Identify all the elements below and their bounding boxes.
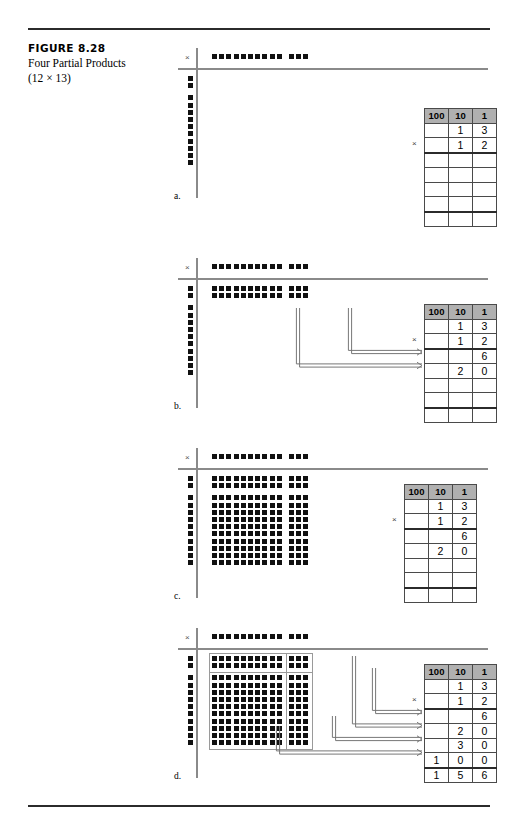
array-dot (270, 476, 275, 481)
array-dot (241, 495, 246, 500)
array-dot (277, 517, 282, 522)
factor-dot (289, 54, 294, 59)
factor-dot (234, 454, 239, 459)
table-cell (425, 123, 449, 138)
array-dot (241, 510, 246, 515)
figure-caption: FIGURE 8.28 Four Partial Products (12 × … (28, 42, 178, 86)
table-cell (473, 153, 497, 168)
array-dot (303, 503, 308, 508)
factor-dot (241, 54, 246, 59)
array-dot (234, 531, 239, 536)
horizontal-axis-line (178, 468, 488, 470)
panel-c: ×1001011312620×c. (178, 446, 508, 636)
array-dot (248, 483, 253, 488)
array-dot (219, 495, 224, 500)
factor-dot (262, 54, 267, 59)
array-dot (226, 546, 231, 551)
table-cell (425, 197, 449, 212)
table-cell: 0 (453, 544, 477, 559)
factor-dot (188, 553, 193, 558)
table-header-cell: 1 (473, 109, 497, 124)
array-dot (226, 524, 231, 529)
factor-dot (188, 110, 193, 115)
array-dot (289, 531, 294, 536)
array-dot (234, 510, 239, 515)
array-dot (270, 539, 275, 544)
array-dot (255, 510, 260, 515)
table-header-row: 100101 (405, 485, 477, 500)
table-cell: 1 (449, 123, 473, 138)
array-dot (219, 483, 224, 488)
table-header-row: 100101 (425, 109, 497, 124)
factor-dot (277, 54, 282, 59)
array-dot (241, 531, 246, 536)
array-dot (277, 531, 282, 536)
array-dot (277, 510, 282, 515)
factor-dot (188, 560, 193, 565)
array-dot (255, 476, 260, 481)
factor-dot (188, 153, 193, 158)
array-dot (277, 560, 282, 565)
array-dot (248, 560, 253, 565)
array-dot (270, 553, 275, 558)
table-row (425, 197, 497, 212)
array-dot (270, 546, 275, 551)
array-dot (303, 560, 308, 565)
array-dot (219, 517, 224, 522)
array-dot (277, 524, 282, 529)
array-dot (212, 476, 217, 481)
array-dot (219, 553, 224, 558)
array-dot (219, 503, 224, 508)
table-row: 6 (405, 529, 477, 544)
factor-dot (188, 483, 193, 488)
array-dot (262, 476, 267, 481)
table-cell (405, 544, 429, 559)
array-dot (277, 553, 282, 558)
array-dot (241, 560, 246, 565)
array-dot (248, 510, 253, 515)
array-dot (303, 546, 308, 551)
table-cell (449, 153, 473, 168)
array-dot (241, 539, 246, 544)
panel-a: ×1001011312×a. (178, 46, 508, 236)
array-dot (241, 476, 246, 481)
array-dot (289, 476, 294, 481)
factor-dot (255, 454, 260, 459)
table-cell (425, 182, 449, 197)
table-cell (405, 529, 429, 544)
array-dot (270, 495, 275, 500)
array-dot (289, 560, 294, 565)
array-dot (255, 524, 260, 529)
array-dot (255, 531, 260, 536)
panel-letter-label: b. (174, 401, 181, 411)
array-dot (219, 510, 224, 515)
figure-subtitle: (12 × 13) (28, 71, 178, 86)
array-dot (277, 546, 282, 551)
array-dot (212, 553, 217, 558)
array-dot (303, 517, 308, 522)
table-cell (473, 197, 497, 212)
array-dot (212, 524, 217, 529)
array-dot (296, 503, 301, 508)
table-header-cell: 100 (405, 485, 429, 500)
array-dot (296, 517, 301, 522)
array-dot (241, 483, 246, 488)
factor-dot (188, 503, 193, 508)
factor-dot (188, 495, 193, 500)
array-dot (226, 539, 231, 544)
array-dot (255, 503, 260, 508)
factor-dot (188, 117, 193, 122)
table-row (425, 212, 497, 227)
array-dot (262, 531, 267, 536)
figure-title: Four Partial Products (28, 56, 178, 71)
array-dot (212, 539, 217, 544)
array-dot (255, 546, 260, 551)
array-dot (262, 546, 267, 551)
table-cell (429, 558, 453, 573)
array-dot (296, 546, 301, 551)
array-dot (248, 476, 253, 481)
place-value-table: 1001011312 (424, 108, 497, 227)
factor-dot (270, 54, 275, 59)
factor-dot (188, 103, 193, 108)
array-dot (248, 531, 253, 536)
